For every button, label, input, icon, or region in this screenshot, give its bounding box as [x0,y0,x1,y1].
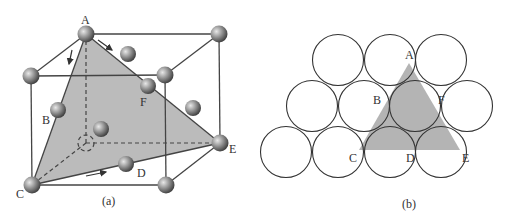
atom-a [78,26,95,43]
atom-b [50,102,66,118]
label-a-F: F [140,95,147,109]
atom-c [24,177,41,194]
label-b-A: A [405,48,414,62]
label-b-F: F [438,93,445,107]
label-a-E: E [229,142,236,156]
caption-a: (a) [102,194,115,208]
caption-b: (b) [402,197,416,211]
label-b-C: C [349,151,357,165]
label-b-E: E [462,151,469,165]
figure-b-close-packed-layer: A B C D E F (b) [261,35,493,212]
label-a-D: D [137,166,146,180]
label-b-B: B [373,93,381,107]
atom-e [212,135,229,152]
label-a-A: A [81,13,90,27]
label-b-D: D [406,151,415,165]
diagram-canvas: A B C D E F (a) A B C D E F (b) [0,0,521,223]
figure-a-fcc-cell: A B C D E F (a) [16,13,236,208]
atom-d [118,156,134,172]
label-a-C: C [16,187,24,201]
label-a-B: B [42,113,50,127]
atom-f [140,78,156,94]
